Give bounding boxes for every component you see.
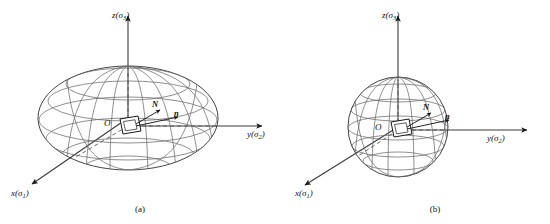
panel-b-z-axis-label: z(σ3) — [381, 10, 399, 21]
panel-b-stress-element — [391, 119, 412, 137]
panel-a-caption: (a) — [135, 204, 145, 214]
panel-b-caption: (b) — [430, 204, 441, 214]
panel-b-origin-label: O — [375, 122, 382, 132]
panel-a-label-N: N — [151, 99, 159, 109]
panel-a-label-n: n — [174, 108, 179, 118]
panel-a-y-axis-label: y(σ2) — [246, 129, 265, 140]
panel-a-x-axis-label: x(σ1) — [10, 188, 29, 199]
panel-b-label-N: N — [422, 102, 430, 112]
panel-b-x-axis-label: x(σ1) — [294, 188, 313, 199]
panel-b-y-axis-label: y(σ2) — [486, 133, 505, 144]
panel-a-origin-label: O — [104, 118, 111, 128]
panel-b-label-n: n — [445, 111, 450, 121]
stress-ellipsoid-figure: z(σ3) y(σ2) x(σ1) O N n (a) — [0, 0, 550, 224]
panel-a-z-axis-label: z(σ3) — [111, 10, 129, 21]
canvas-background — [0, 0, 550, 224]
figure-root: z(σ3) y(σ2) x(σ1) O N n (a) — [0, 0, 550, 224]
panel-a-stress-element — [120, 116, 141, 134]
